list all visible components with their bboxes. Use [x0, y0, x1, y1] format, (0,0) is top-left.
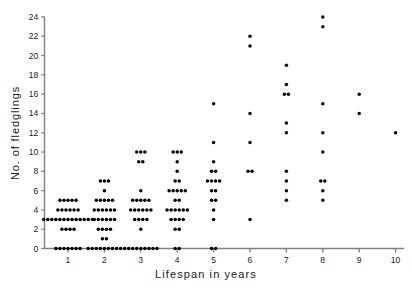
data-point — [184, 189, 188, 193]
data-points-layer — [42, 15, 397, 250]
data-point — [141, 160, 145, 164]
plot-canvas: 02468101214161820222412345678910 — [0, 0, 412, 293]
data-point — [137, 160, 141, 164]
y-tick-label: 6 — [34, 186, 39, 196]
data-point — [131, 199, 135, 203]
data-point — [287, 92, 291, 96]
x-tick-label: 8 — [320, 255, 325, 265]
data-point — [177, 179, 181, 183]
data-point — [129, 208, 133, 212]
data-point — [323, 179, 327, 183]
x-tick-label: 4 — [175, 255, 180, 265]
data-point — [93, 218, 97, 222]
data-point — [210, 199, 214, 203]
data-point — [165, 208, 169, 212]
data-point — [54, 247, 58, 251]
data-point — [214, 179, 218, 183]
data-point — [74, 199, 78, 203]
data-point — [139, 247, 143, 251]
data-point — [169, 208, 173, 212]
data-point — [149, 208, 153, 212]
data-point — [177, 247, 181, 251]
data-point — [173, 179, 177, 183]
data-point — [210, 189, 214, 193]
data-point — [70, 199, 74, 203]
y-tick-label: 8 — [34, 166, 39, 176]
data-point — [210, 170, 214, 174]
data-point — [97, 218, 101, 222]
data-point — [321, 131, 325, 135]
data-point — [97, 227, 101, 231]
y-tick-label: 2 — [34, 224, 39, 234]
data-point — [177, 227, 181, 231]
data-point — [285, 170, 289, 174]
data-point — [60, 227, 64, 231]
data-point — [127, 247, 131, 251]
data-point — [141, 218, 145, 222]
data-point — [103, 189, 107, 193]
data-point — [62, 199, 65, 203]
data-point — [321, 25, 325, 29]
data-point — [177, 208, 181, 212]
y-tick-label: 18 — [29, 70, 39, 80]
data-point — [151, 247, 155, 251]
data-point — [93, 208, 97, 212]
data-point — [119, 247, 123, 251]
data-point — [115, 247, 119, 251]
data-point — [285, 131, 289, 135]
data-point — [103, 247, 107, 251]
y-tick-label: 22 — [29, 31, 39, 41]
data-point — [285, 121, 289, 125]
data-point — [248, 112, 252, 116]
data-point — [107, 247, 111, 251]
data-point — [105, 218, 109, 222]
data-point — [246, 170, 250, 174]
data-point — [101, 218, 105, 222]
x-tick-label: 1 — [66, 255, 71, 265]
data-point — [321, 199, 325, 203]
data-point — [321, 150, 325, 154]
data-point — [135, 150, 139, 154]
data-point — [109, 208, 113, 212]
y-tick-label: 10 — [29, 147, 39, 157]
data-point — [155, 247, 159, 251]
data-point — [180, 189, 184, 193]
y-tick-label: 16 — [29, 89, 39, 99]
data-point — [74, 218, 78, 222]
data-point — [212, 102, 216, 106]
data-point — [109, 227, 113, 231]
data-point — [105, 237, 109, 241]
x-tick-label: 6 — [248, 255, 253, 265]
data-point — [101, 237, 105, 241]
data-point — [143, 199, 147, 203]
data-point — [145, 218, 149, 222]
data-point — [46, 218, 50, 222]
data-point — [68, 208, 72, 212]
x-tick-label: 10 — [391, 255, 401, 265]
data-point — [60, 208, 64, 212]
data-point — [105, 208, 109, 212]
data-point — [285, 83, 289, 87]
data-point — [212, 218, 216, 222]
data-point — [137, 218, 141, 222]
data-point — [173, 199, 177, 203]
data-point — [173, 208, 177, 212]
data-point — [139, 199, 143, 203]
data-point — [82, 218, 86, 222]
data-point — [169, 218, 173, 222]
data-point — [131, 247, 135, 251]
data-point — [99, 247, 103, 251]
data-point — [135, 199, 139, 203]
data-point — [99, 179, 103, 183]
data-point — [139, 227, 143, 231]
data-point — [212, 141, 216, 145]
data-point — [145, 208, 149, 212]
data-point — [99, 199, 103, 203]
y-tick-label: 12 — [29, 128, 39, 138]
data-point — [95, 199, 99, 203]
data-point — [56, 208, 60, 212]
data-point — [186, 208, 190, 212]
data-point — [248, 44, 252, 48]
data-point — [72, 227, 76, 231]
data-point — [321, 15, 325, 19]
